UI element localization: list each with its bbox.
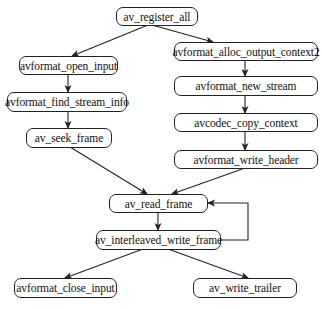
node-av-read-frame: av_read_frame — [109, 194, 208, 213]
ffmpeg-remux-flowchart: av_register_all avformat_open_input avfo… — [0, 0, 322, 309]
node-avformat-find-stream-info: avformat_find_stream_info — [7, 92, 127, 112]
edge-seek-frame-to-read-frame — [70, 147, 147, 194]
edge-interleaved-to-write-trailer — [168, 249, 248, 278]
node-avformat-alloc-output-context2: avformat_alloc_output_context2 — [174, 42, 318, 61]
node-av-write-trailer: av_write_trailer — [193, 278, 297, 298]
edge-register-to-open-input — [72, 25, 148, 56]
node-avformat-close-input: avformat_close_input — [14, 278, 117, 298]
node-avformat-write-header: avformat_write_header — [174, 150, 318, 169]
node-av-register-all: av_register_all — [116, 7, 198, 26]
node-avformat-new-stream: avformat_new_stream — [174, 76, 318, 96]
node-av-interleaved-write-frame: av_interleaved_write_frame — [96, 230, 221, 250]
node-av-seek-frame: av_seek_frame — [26, 128, 112, 148]
edge-write-header-to-read-frame — [172, 168, 245, 194]
node-avformat-open-input: avformat_open_input — [19, 56, 118, 75]
node-avcodec-copy-context: avcodec_copy_context — [174, 113, 318, 132]
edge-interleaved-to-close-input — [65, 249, 143, 278]
edge-register-to-alloc-output — [152, 25, 213, 42]
